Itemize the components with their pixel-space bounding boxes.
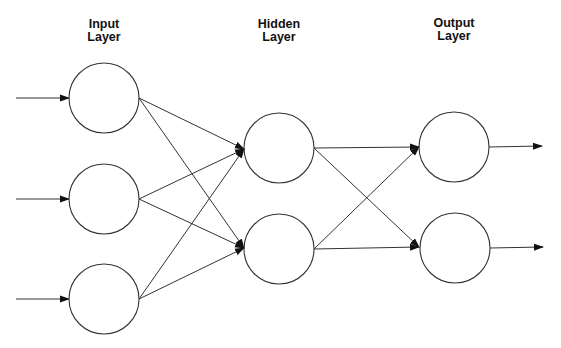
hidden-layer-label-line1: Hidden (229, 18, 329, 31)
hidden-layer-label-line2: Layer (229, 31, 329, 44)
hidden-node-h1 (244, 113, 314, 183)
hidden-layer-label: Hidden Layer (229, 18, 329, 43)
hidden-node-h2 (244, 214, 314, 284)
input-layer-label-line2: Layer (54, 31, 154, 44)
connection-i1-h2 (139, 98, 244, 248)
input-layer-label-line1: Input (54, 18, 154, 31)
connections (139, 98, 419, 299)
connection-i3-h1 (139, 149, 244, 299)
output-layer-label-line2: Layer (404, 30, 504, 43)
connection-i2-h1 (139, 149, 244, 199)
nodes (69, 63, 490, 334)
input-node-i2 (69, 164, 139, 234)
input-layer-label: Input Layer (54, 18, 154, 43)
output-node-o1 (419, 112, 489, 182)
neural-network-diagram (0, 0, 561, 348)
output-layer-label: Output Layer (404, 17, 504, 42)
output-arrow-o1 (489, 146, 542, 147)
output-arrows (489, 146, 543, 248)
output-layer-label-line1: Output (404, 17, 504, 30)
connection-i1-h1 (139, 98, 244, 149)
input-arrows (16, 98, 69, 299)
connection-i3-h2 (139, 248, 244, 299)
connection-h1-o1 (314, 147, 419, 148)
input-node-i1 (69, 63, 139, 133)
connection-h2-o2 (314, 247, 419, 249)
output-node-o2 (420, 213, 490, 283)
input-node-i3 (69, 264, 139, 334)
output-arrow-o2 (490, 247, 543, 248)
